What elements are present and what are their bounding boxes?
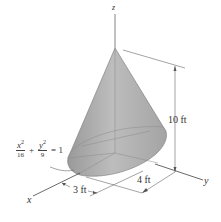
- equals-one: = 1: [51, 145, 63, 155]
- fraction-y: y2 9: [38, 140, 47, 159]
- y-axis-label: y: [204, 176, 208, 186]
- semi-axis-y-label: 4 ft: [137, 175, 151, 185]
- semi-axis-x-label: 3 ft: [73, 185, 87, 195]
- y-axis-line: [155, 164, 203, 180]
- fraction-x: x2 16: [16, 140, 25, 159]
- height-extension-line: [123, 50, 185, 68]
- cone-diagram: z x y 10 ft 3 ft 4 ft x2 16 + y2 9 = 1: [0, 0, 221, 222]
- height-arrow-top: [174, 66, 177, 71]
- base-ellipse-equation: x2 16 + y2 9 = 1: [14, 140, 65, 159]
- z-axis-label: z: [112, 4, 115, 12]
- cone-surface: [68, 48, 167, 176]
- 4ft-arrow: [142, 188, 148, 193]
- x-axis-label: x: [27, 195, 31, 205]
- cone-drawing: [0, 0, 221, 222]
- height-dimension-label: 10 ft: [168, 115, 187, 125]
- plus-sign: +: [29, 145, 34, 155]
